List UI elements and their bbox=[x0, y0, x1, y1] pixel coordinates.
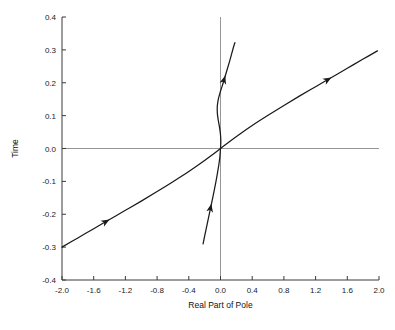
y-tick-label: -0.3 bbox=[42, 243, 56, 252]
x-tick-label: -0.8 bbox=[150, 286, 164, 295]
x-tick-label: 0.4 bbox=[247, 286, 259, 295]
figure-container: -2.0-1.6-1.2-0.8-0.40.00.40.81.21.62.0 0… bbox=[0, 0, 395, 330]
x-tick-label: 1.2 bbox=[310, 286, 322, 295]
y-tick-label: 0.2 bbox=[45, 79, 57, 88]
x-tick-label: -0.4 bbox=[182, 286, 196, 295]
y-tick-label: 0.1 bbox=[45, 112, 57, 121]
y-tick-label: 0.0 bbox=[45, 145, 57, 154]
x-tick-label: 0.0 bbox=[215, 286, 227, 295]
root-locus-chart: -2.0-1.6-1.2-0.8-0.40.00.40.81.21.62.0 0… bbox=[0, 0, 395, 330]
x-tick-label: 2.0 bbox=[373, 286, 385, 295]
curve-real-pole-branch bbox=[62, 51, 377, 247]
x-tick-label: -1.6 bbox=[87, 286, 101, 295]
x-tick-label: 0.8 bbox=[278, 286, 290, 295]
x-tick-label: -1.2 bbox=[119, 286, 133, 295]
x-tick-label: -2.0 bbox=[55, 286, 69, 295]
x-tick-label: 1.6 bbox=[342, 286, 354, 295]
curve-complex-pole-branch bbox=[203, 43, 235, 244]
y-axis-label: Time bbox=[10, 139, 20, 158]
y-tick-label: 0.4 bbox=[45, 13, 57, 22]
data-curves bbox=[62, 43, 377, 247]
y-tick-label: -0.4 bbox=[42, 276, 56, 285]
x-axis-label: Real Part of Pole bbox=[188, 300, 253, 310]
direction-arrow-icon bbox=[100, 217, 111, 227]
direction-arrow-icon bbox=[322, 75, 333, 85]
x-axis-ticks: -2.0-1.6-1.2-0.8-0.40.00.40.81.21.62.0 bbox=[55, 276, 385, 295]
y-tick-label: -0.1 bbox=[42, 177, 56, 186]
y-tick-label: 0.3 bbox=[45, 46, 57, 55]
y-tick-label: -0.2 bbox=[42, 210, 56, 219]
